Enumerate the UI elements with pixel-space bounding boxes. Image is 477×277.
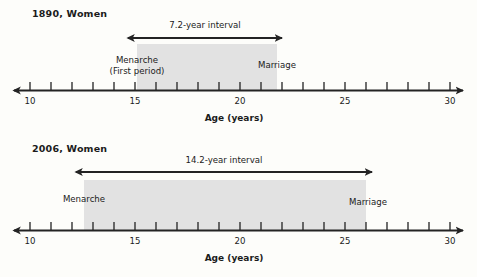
- interval-label-2006: 14.2-year interval: [186, 155, 263, 165]
- axis-ticks-2006: [30, 222, 450, 230]
- menarche-label-line2: (First period): [110, 66, 165, 77]
- tick-label-30-2006: 30: [445, 236, 456, 246]
- tick-label-15-1890: 15: [130, 96, 141, 106]
- figure-canvas: 1890, Women 7.2-year interval Menarche (…: [0, 0, 477, 277]
- menarche-label-2006: Menarche: [63, 194, 105, 204]
- tick-label-10-2006: 10: [25, 236, 36, 246]
- menarche-label-1890: Menarche (First period): [110, 55, 165, 76]
- marriage-label-1890: Marriage: [258, 60, 296, 70]
- tick-label-25-1890: 25: [340, 96, 351, 106]
- axis-title-2006: Age (years): [205, 253, 264, 263]
- menarche-label-line1: Menarche: [110, 55, 165, 66]
- axis-title-1890: Age (years): [205, 113, 264, 123]
- tick-label-20-1890: 20: [235, 96, 246, 106]
- axis-ticks-1890: [30, 82, 450, 90]
- marriage-label-2006: Marriage: [349, 197, 387, 207]
- tick-label-30-1890: 30: [445, 96, 456, 106]
- interval-label-1890: 7.2-year interval: [169, 20, 240, 30]
- panel-title-1890: 1890, Women: [32, 8, 107, 19]
- tick-label-25-2006: 25: [340, 236, 351, 246]
- tick-label-20-2006: 20: [235, 236, 246, 246]
- panel-1890-graphics: [14, 38, 463, 91]
- panel-title-2006: 2006, Women: [32, 143, 107, 154]
- tick-label-15-2006: 15: [130, 236, 141, 246]
- tick-label-10-1890: 10: [25, 96, 36, 106]
